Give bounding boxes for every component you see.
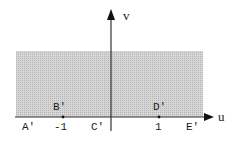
diagram-canvas <box>0 0 238 145</box>
point-b-prime <box>62 116 65 119</box>
tick-label-1: 1 <box>155 122 162 133</box>
shaded-upper-half-plane <box>16 51 203 117</box>
label-c-prime: C' <box>91 122 104 133</box>
label-d-prime: D' <box>153 102 166 113</box>
point-d-prime <box>158 116 161 119</box>
tick-label-minus-1: -1 <box>54 122 67 133</box>
v-axis-arrow-icon <box>107 9 115 20</box>
u-axis-label: u <box>218 110 225 123</box>
u-axis-arrow-icon <box>204 113 214 121</box>
v-axis-label: v <box>123 9 130 22</box>
label-e-prime: E' <box>186 122 199 133</box>
label-a-prime: A' <box>22 122 35 133</box>
label-b-prime: B' <box>53 102 66 113</box>
